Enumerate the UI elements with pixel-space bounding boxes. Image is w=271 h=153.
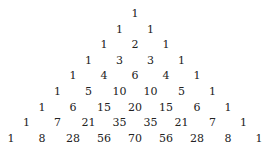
triangle-cell: 10 (105, 86, 135, 98)
triangle-cell: 3 (105, 55, 135, 67)
triangle-cell: 4 (89, 70, 119, 82)
triangle-cell: 6 (182, 102, 212, 114)
triangle-cell: 21 (74, 117, 104, 129)
triangle-cell: 1 (151, 39, 181, 51)
triangle-cell: 1 (27, 102, 57, 114)
triangle-cell: 6 (58, 102, 88, 114)
triangle-cell: 6 (120, 70, 150, 82)
triangle-cell: 7 (43, 117, 73, 129)
triangle-cell: 5 (74, 86, 104, 98)
triangle-cell: 1 (213, 102, 243, 114)
triangle-cell: 2 (120, 39, 150, 51)
triangle-cell: 10 (136, 86, 166, 98)
triangle-cell: 1 (0, 133, 26, 145)
triangle-cell: 1 (120, 8, 150, 20)
triangle-cell: 8 (27, 133, 57, 145)
triangle-cell: 1 (43, 86, 73, 98)
triangle-cell: 56 (151, 133, 181, 145)
triangle-cell: 1 (12, 117, 42, 129)
triangle-cell: 56 (89, 133, 119, 145)
triangle-cell: 1 (89, 39, 119, 51)
triangle-cell: 28 (58, 133, 88, 145)
triangle-cell: 21 (167, 117, 197, 129)
triangle-cell: 5 (167, 86, 197, 98)
triangle-cell: 15 (89, 102, 119, 114)
triangle-cell: 1 (58, 70, 88, 82)
triangle-cell: 1 (244, 133, 271, 145)
triangle-cell: 1 (182, 70, 212, 82)
triangle-cell: 35 (136, 117, 166, 129)
triangle-cell: 8 (213, 133, 243, 145)
triangle-cell: 4 (151, 70, 181, 82)
triangle-cell: 3 (136, 55, 166, 67)
triangle-cell: 70 (120, 133, 150, 145)
triangle-cell: 7 (198, 117, 228, 129)
triangle-cell: 1 (105, 24, 135, 36)
triangle-cell: 20 (120, 102, 150, 114)
triangle-cell: 15 (151, 102, 181, 114)
triangle-cell: 1 (167, 55, 197, 67)
triangle-cell: 28 (182, 133, 212, 145)
triangle-cell: 1 (74, 55, 104, 67)
triangle-cell: 35 (105, 117, 135, 129)
triangle-cell: 1 (198, 86, 228, 98)
pascal-triangle: 1111211331146411510105116152015611721353… (0, 0, 271, 153)
triangle-cell: 1 (229, 117, 259, 129)
triangle-cell: 1 (136, 24, 166, 36)
